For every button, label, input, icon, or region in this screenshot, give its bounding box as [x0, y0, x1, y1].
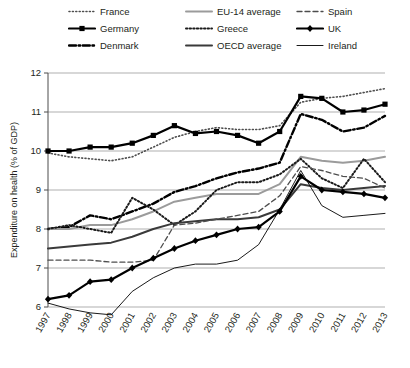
data-point — [340, 109, 345, 114]
series-greece — [48, 159, 385, 233]
data-point — [172, 123, 177, 128]
x-tick-label: 2008 — [264, 311, 284, 335]
data-point — [319, 96, 324, 101]
legend-label-oecd: OECD average — [217, 40, 281, 51]
legend-label-eu14: EU-14 average — [217, 6, 281, 17]
series-france — [48, 89, 385, 161]
data-point — [45, 296, 51, 303]
grid-lines — [48, 73, 385, 268]
data-point — [150, 255, 156, 262]
data-point — [193, 131, 198, 136]
y-tick-label: 10 — [30, 145, 41, 156]
data-point — [151, 133, 156, 138]
data-point — [298, 94, 303, 99]
y-axis-title: Expenditure on health (% of GDP) — [9, 122, 19, 258]
x-tick-label: 2011 — [328, 311, 348, 334]
series-eu-14-average — [48, 157, 385, 229]
x-tick-label: 1999 — [75, 311, 95, 335]
legend-item-france: France — [68, 6, 130, 17]
y-tick-label: 6 — [36, 301, 41, 312]
legend-item-greece: Greece — [185, 23, 248, 34]
x-tick-label: 2006 — [222, 311, 242, 335]
legend-swatch-oecd — [185, 40, 213, 51]
chart-legend: France EU-14 average Spain Germany Greec… — [0, 0, 410, 58]
data-point — [109, 145, 114, 150]
data-point — [130, 141, 135, 146]
legend-label-denmark: Denmark — [100, 40, 139, 51]
legend-item-eu14: EU-14 average — [185, 6, 281, 17]
legend-item-germany: Germany — [68, 23, 139, 34]
data-point — [66, 148, 71, 153]
data-point — [382, 194, 388, 201]
legend-label-germany: Germany — [100, 23, 139, 34]
legend-swatch-ireland — [296, 40, 324, 51]
x-tick-label: 2001 — [117, 311, 137, 335]
x-tick-label: 2004 — [180, 311, 200, 335]
legend-swatch-uk — [296, 23, 324, 34]
x-tick-label: 2010 — [306, 311, 326, 335]
legend-item-spain: Spain — [296, 6, 352, 17]
legend-swatch-france — [68, 6, 96, 17]
data-point — [88, 145, 93, 150]
x-tick-labels: 1997199819992000200120022003200420052006… — [33, 311, 390, 335]
x-tick-label: 2003 — [159, 311, 179, 335]
x-tick-label: 1997 — [33, 311, 53, 335]
y-tick-label: 11 — [31, 106, 41, 117]
series-uk — [45, 173, 388, 303]
data-series — [45, 89, 388, 315]
x-tick-label: 2013 — [370, 311, 390, 335]
y-tick-label: 7 — [36, 262, 41, 273]
data-point — [361, 107, 366, 112]
legend-swatch-germany — [68, 23, 96, 34]
legend-swatch-greece — [185, 23, 213, 34]
legend-swatch-eu14 — [185, 6, 213, 17]
legend-label-greece: Greece — [217, 23, 248, 34]
data-point — [171, 245, 177, 252]
series-spain — [48, 167, 385, 263]
legend-label-ireland: Ireland — [328, 40, 357, 51]
data-point — [256, 141, 261, 146]
x-tick-label: 2007 — [243, 311, 263, 335]
data-point — [235, 133, 240, 138]
x-tick-label: 2012 — [349, 311, 369, 335]
legend-swatch-denmark — [68, 40, 96, 51]
legend-item-oecd: OECD average — [185, 40, 281, 51]
data-point — [192, 237, 198, 244]
y-tick-label: 12 — [30, 67, 41, 78]
y-tick-label: 9 — [36, 184, 41, 195]
legend-label-france: France — [100, 6, 130, 17]
legend-label-spain: Spain — [328, 6, 352, 17]
legend-item-denmark: Denmark — [68, 40, 139, 51]
data-point — [361, 191, 367, 198]
x-tick-label: 1998 — [54, 311, 74, 335]
data-point — [382, 102, 387, 107]
legend-item-uk: UK — [296, 23, 341, 34]
y-axis-title-group: Expenditure on health (% of GDP) — [9, 122, 19, 258]
series-germany — [45, 94, 387, 154]
data-point — [45, 148, 50, 153]
x-tick-label: 2002 — [138, 311, 158, 335]
data-point — [213, 231, 219, 238]
x-tick-label: 2009 — [285, 311, 305, 335]
data-point — [234, 226, 240, 233]
legend-item-ireland: Ireland — [296, 40, 357, 51]
chart-figure: France EU-14 average Spain Germany Greec… — [0, 0, 410, 368]
data-point — [277, 129, 282, 134]
legend-label-uk: UK — [328, 23, 341, 34]
x-tick-label: 2005 — [201, 311, 221, 335]
y-tick-labels: 6789101112 — [30, 67, 48, 312]
data-point — [214, 129, 219, 134]
y-tick-label: 8 — [36, 223, 41, 234]
legend-swatch-spain — [296, 6, 324, 17]
